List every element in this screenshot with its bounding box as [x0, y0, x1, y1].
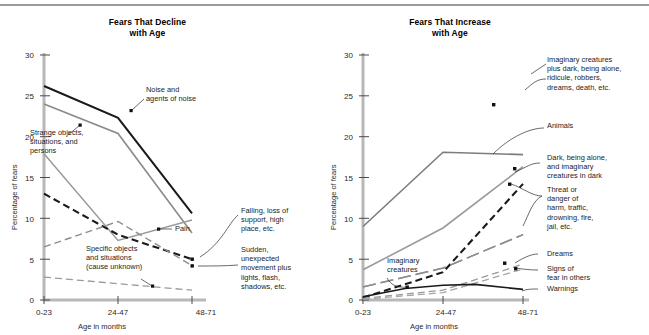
series-line-dark-being-alone-imaginary-creatures-in-dark — [363, 167, 523, 270]
annotation-dreams: Dreams — [547, 249, 607, 258]
annotation-signs-of-fear-in-others: Signs of fear in others — [547, 264, 627, 282]
annotation-sudden-unexpected-movement: Sudden, unexpected movement plus lights,… — [241, 245, 321, 291]
figure-root: Fears That Decline with Age Percentage o… — [0, 0, 649, 335]
series-line-specific-objects-and-situations — [44, 277, 192, 290]
series-line-animals — [363, 152, 523, 226]
annotation-noise-and-agents-of-noise: Noise and agents of noise — [146, 85, 216, 103]
annotation-strange-objects: Strange objects, situations, and persons — [30, 128, 116, 156]
series-line-pain — [44, 154, 192, 241]
chart-panel-fears-decline: Fears That Decline with Age Percentage o… — [0, 0, 325, 335]
annotation-threat-or-danger: Threat or danger of harm, traffic, drown… — [547, 185, 637, 231]
series-line-strange-objects-situations-and-persons — [44, 104, 192, 233]
chart-panel-fears-increase: Fears That Increase with Age Percentage … — [325, 0, 649, 335]
annotation-pain: Pain — [175, 224, 205, 233]
annotation-dark-being-alone: Dark, being alone, and imaginary creatur… — [547, 153, 642, 181]
annotation-animals: Animals — [547, 121, 607, 130]
annotation-imaginary-creatures: Imaginary creatures — [387, 256, 443, 274]
annotation-imaginary-creatures-plus-dark: Imaginary creatures plus dark, being alo… — [547, 55, 647, 92]
annotation-falling-loss-of-support: Falling, loss of support, high place, et… — [241, 206, 319, 234]
annotation-warnings: Warnings — [547, 284, 607, 293]
annotation-specific-objects: Specific objects and situations (cause u… — [86, 244, 176, 272]
